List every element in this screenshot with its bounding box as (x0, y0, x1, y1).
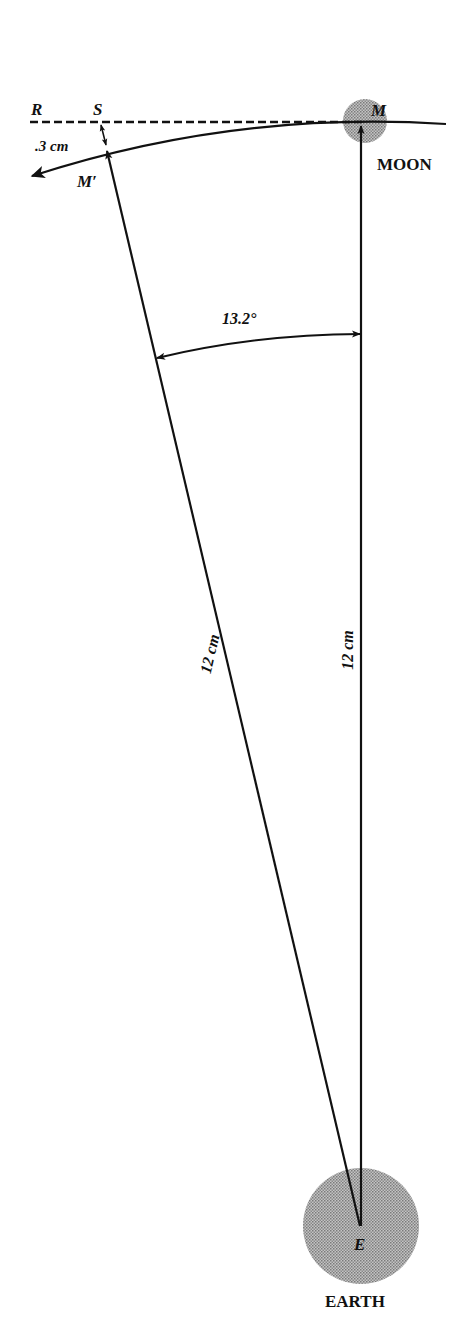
label-radius-right: 12 cm (339, 630, 356, 670)
label-point-M-prime: M′ (76, 172, 97, 191)
label-point-R: R (30, 100, 42, 119)
moon-orbit-diagram: R S M .3 cm M′ MOON 13.2° 12 cm 12 cm E … (0, 0, 453, 1343)
angle-arc (157, 334, 360, 358)
label-fall-distance: .3 cm (35, 138, 68, 154)
label-earth: EARTH (325, 1292, 385, 1311)
label-radius-left: 12 cm (197, 633, 223, 675)
label-point-M: M (370, 101, 387, 120)
label-point-S: S (93, 100, 102, 119)
label-moon: MOON (377, 155, 432, 174)
label-angle: 13.2° (222, 310, 257, 327)
label-point-E: E (353, 1235, 365, 1254)
fall-distance-arrow (101, 125, 106, 145)
